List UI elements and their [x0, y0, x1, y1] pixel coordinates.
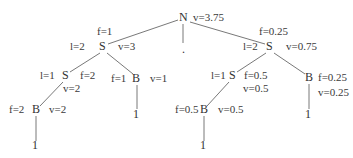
tree-node: S — [266, 41, 273, 52]
node-annotation: l=2 — [243, 41, 258, 52]
tree-node: N — [179, 12, 188, 23]
node-annotation: f=2 — [9, 104, 24, 115]
node-annotation: v=0.5 — [243, 83, 268, 94]
node-annotation: v=0.25 — [318, 87, 349, 98]
node-annotation: f=2 — [80, 70, 95, 81]
tree-node: S — [229, 70, 236, 81]
node-annotation: f=0.5 — [175, 104, 199, 115]
tree-node: S — [99, 41, 106, 52]
tree-node: 1 — [32, 140, 38, 151]
tree-node: 1 — [305, 109, 311, 120]
tree-node: . — [182, 44, 185, 55]
tree-node: B — [32, 104, 40, 115]
tree-edge — [274, 53, 305, 74]
tree-node: 1 — [200, 140, 206, 151]
node-annotation: v=2 — [49, 104, 66, 115]
node-annotation: f=1 — [97, 26, 112, 37]
tree-node: 1 — [133, 109, 139, 120]
tree-node: S — [62, 70, 69, 81]
node-annotation: f=1 — [111, 73, 126, 84]
node-annotation: f=0.25 — [318, 72, 347, 83]
node-annotation: f=0.5 — [244, 70, 268, 81]
node-annotation: f=0.25 — [259, 26, 288, 37]
node-annotation: v=1 — [150, 73, 167, 84]
tree-node: B — [200, 104, 208, 115]
tree-node: B — [132, 73, 140, 84]
node-annotation: l=1 — [40, 70, 55, 81]
tree-diagram: Nv=3.75.Sf=1l=2v=3Sf=0.25l=2v=0.75Sl=1f=… — [0, 0, 353, 158]
node-annotation: v=3.75 — [193, 12, 224, 23]
node-annotation: v=0.5 — [218, 104, 243, 115]
node-annotation: v=0.75 — [286, 41, 317, 52]
node-annotation: v=2 — [63, 83, 80, 94]
node-annotation: l=1 — [211, 70, 226, 81]
node-annotation: l=2 — [70, 41, 85, 52]
tree-edge — [107, 53, 133, 74]
tree-node: B — [305, 72, 313, 83]
node-annotation: v=3 — [118, 41, 135, 52]
